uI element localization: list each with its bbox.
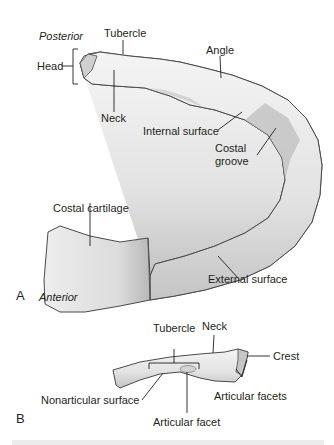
label-articular-facets: Articular facets [214,390,287,402]
panel-letter-b: B [16,413,25,425]
label-neck-b: Neck [202,320,227,332]
footer-divider [12,440,324,445]
label-costal-groove-1: Costal [215,142,246,154]
label-anterior: Anterior [39,291,78,303]
label-posterior: Posterior [39,30,83,42]
label-neck-a: Neck [101,112,126,124]
label-external-surface: External surface [208,273,287,285]
label-costal-cartilage: Costal cartilage [53,202,129,214]
label-tubercle-b: Tubercle [153,322,195,334]
label-costal-groove-2: groove [215,155,249,167]
label-angle: Angle [206,44,234,56]
label-head: Head [37,60,63,72]
label-articular-facet: Articular facet [153,416,220,428]
panel-letter-a: A [16,290,25,302]
label-nonarticular-surface: Nonarticular surface [41,394,139,406]
label-internal-surface: Internal surface [143,125,219,137]
label-tubercle-a: Tubercle [104,27,146,39]
rib-b-body [113,349,248,388]
label-crest: Crest [273,350,299,362]
